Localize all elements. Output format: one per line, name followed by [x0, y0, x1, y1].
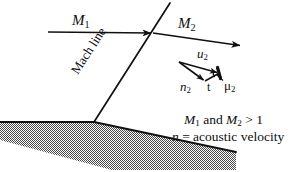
- mach-line-stroke: [94, 3, 170, 122]
- label-mu2: μ2: [224, 79, 235, 94]
- label-n2-subscript: 2: [187, 85, 191, 95]
- u2-vector: [179, 62, 217, 73]
- label-t: t: [207, 81, 210, 93]
- label-m2-subscript: 2: [191, 22, 196, 33]
- note-mach-numbers: M1 and M2 > 1: [184, 113, 263, 128]
- mach-line-figure: M1 M2 Mach line u2 n2 t μ2 M1 and M2 > 1…: [0, 0, 295, 172]
- label-m2: M2: [178, 16, 196, 33]
- label-u2-subscript: 2: [204, 52, 208, 62]
- m2-flow-arrow: [153, 33, 240, 46]
- label-n2: n2: [180, 80, 191, 95]
- figure-canvas: [0, 0, 295, 172]
- note-acoustic-velocity: n = acoustic velocity: [172, 130, 284, 144]
- label-mu2-subscript: 2: [231, 84, 235, 94]
- label-m1: M1: [72, 13, 90, 30]
- label-u2: u2: [197, 47, 208, 62]
- label-m1-subscript: 1: [85, 19, 90, 30]
